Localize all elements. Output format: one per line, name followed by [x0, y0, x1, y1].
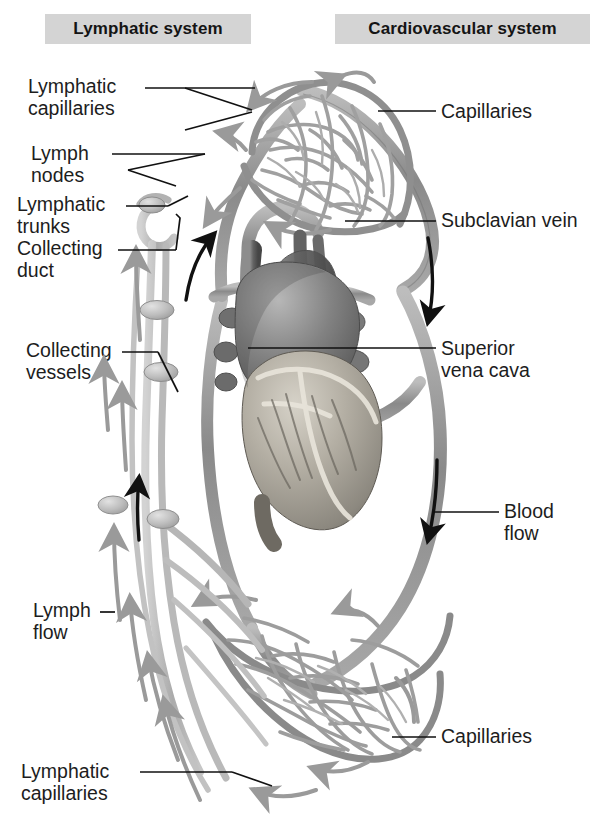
diagram-canvas: Lymphatic system Cardiovascular system L…	[0, 0, 609, 838]
leader-lines	[0, 0, 609, 838]
